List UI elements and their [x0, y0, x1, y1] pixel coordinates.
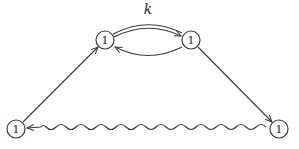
edge-left-diagonal	[23, 47, 98, 122]
node-bottom-left: 1	[7, 120, 25, 138]
edge-wavy-photon	[27, 125, 266, 130]
node-bottom-right: 1	[270, 120, 288, 138]
node-top-left: 1	[96, 31, 114, 49]
svg-text:1: 1	[13, 123, 20, 136]
svg-text:1: 1	[188, 34, 195, 47]
svg-text:1: 1	[276, 123, 283, 136]
diagram-canvas: k 1 1 1 1	[0, 0, 299, 149]
edge-label-k: k	[144, 1, 152, 17]
edge-top-double-arc	[113, 25, 182, 37]
node-top-right: 1	[182, 31, 200, 49]
edge-right-diagonal	[198, 47, 272, 122]
svg-text:1: 1	[102, 34, 109, 47]
edge-bottom-arc	[115, 47, 182, 56]
